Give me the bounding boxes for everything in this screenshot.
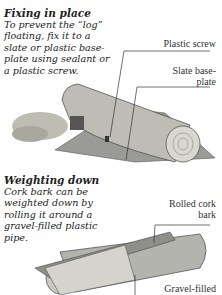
weighting-down-section: Weighting down Cork bark can be weighted… [4,174,116,243]
plastic-screw-icon [105,136,109,142]
gravel-pile-icon [12,112,68,142]
section-heading: Weighting down [4,174,116,186]
label-slate-base-plate: Slate base-plate [156,65,216,87]
label-rolled-cork-bark: Rolled cork bark [156,198,216,220]
section-heading: Fixing in place [4,7,116,19]
label-gravel-filled: Gravel-filled [164,283,216,294]
section-body: Cork bark can be weighted down by rollin… [4,186,116,243]
label-plastic-screw: Plastic screw [164,38,217,49]
fixing-in-place-section: Fixing in place To prevent the “log” flo… [4,7,116,76]
section-body: To prevent the “log” floating, fix it to… [4,19,116,76]
